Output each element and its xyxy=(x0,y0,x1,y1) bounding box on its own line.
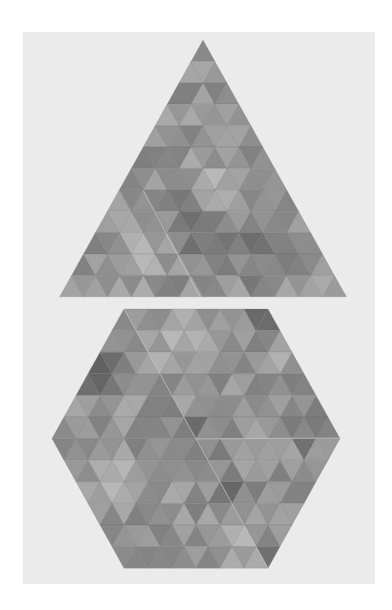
tile-artwork xyxy=(0,0,392,610)
triangle-tiling xyxy=(60,40,347,297)
hexagon-tiling xyxy=(52,309,340,568)
tile xyxy=(191,40,215,61)
